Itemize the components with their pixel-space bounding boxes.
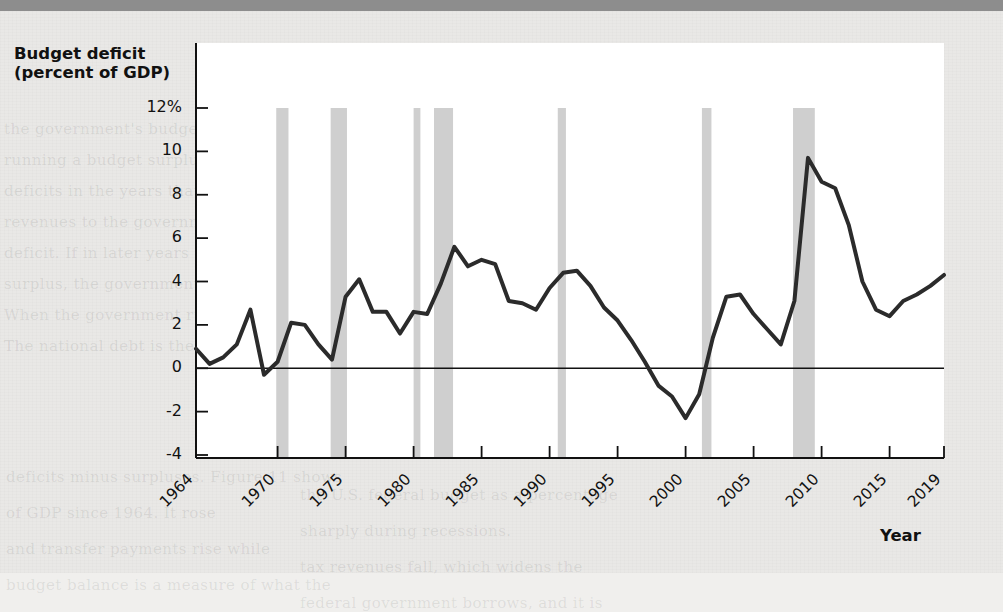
recession-band [558, 108, 566, 458]
recession-band [331, 108, 347, 458]
deficit-line [196, 158, 944, 418]
recession-band [414, 108, 421, 458]
deficit-line-series [196, 158, 944, 418]
ghost-text-line: federal government borrows, and it is [300, 594, 603, 612]
ghost-text-line: budget balance is a measure of what the [6, 576, 331, 594]
recession-band [702, 108, 712, 458]
recession-band [434, 108, 453, 458]
chart-axes [196, 43, 944, 458]
recession-band [276, 108, 288, 458]
